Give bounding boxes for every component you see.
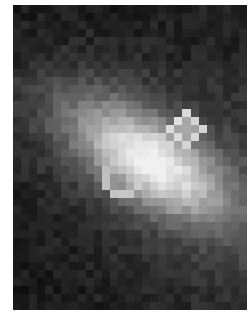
image-pixel <box>61 5 69 13</box>
image-pixel <box>150 125 158 133</box>
image-pixel <box>118 5 126 13</box>
image-pixel <box>231 270 239 278</box>
image-pixel <box>158 238 166 246</box>
image-pixel <box>182 141 190 149</box>
image-pixel <box>29 149 37 157</box>
image-pixel <box>231 174 239 182</box>
image-pixel <box>126 117 134 125</box>
image-pixel <box>182 93 190 101</box>
image-pixel <box>102 5 110 13</box>
image-pixel <box>191 53 199 61</box>
image-pixel <box>158 37 166 45</box>
image-pixel <box>150 246 158 254</box>
image-pixel <box>150 262 158 270</box>
image-pixel <box>61 270 69 278</box>
image-pixel <box>110 29 118 37</box>
image-pixel <box>37 254 45 262</box>
image-pixel <box>150 174 158 182</box>
image-pixel <box>239 238 247 246</box>
image-pixel <box>231 125 239 133</box>
image-pixel <box>61 53 69 61</box>
image-pixel <box>207 45 215 53</box>
image-pixel <box>142 254 150 262</box>
image-pixel <box>53 101 61 109</box>
image-pixel <box>126 85 134 93</box>
image-pixel <box>45 270 53 278</box>
image-pixel <box>142 69 150 77</box>
image-pixel <box>166 214 174 222</box>
image-pixel <box>86 101 94 109</box>
image-pixel <box>126 61 134 69</box>
image-pixel <box>13 85 21 93</box>
image-pixel <box>134 141 142 149</box>
image-pixel <box>110 286 118 294</box>
image-pixel <box>174 93 182 101</box>
image-pixel <box>134 246 142 254</box>
image-pixel <box>158 109 166 117</box>
image-pixel <box>13 174 21 182</box>
image-pixel <box>110 157 118 165</box>
image-pixel <box>110 262 118 270</box>
image-pixel <box>134 302 142 310</box>
image-pixel <box>215 198 223 206</box>
image-pixel <box>191 29 199 37</box>
image-pixel <box>29 206 37 214</box>
image-pixel <box>13 109 21 117</box>
image-pixel <box>78 149 86 157</box>
image-pixel <box>45 101 53 109</box>
image-pixel <box>126 198 134 206</box>
image-pixel <box>207 13 215 21</box>
image-pixel <box>21 230 29 238</box>
image-pixel <box>199 29 207 37</box>
image-pixel <box>102 190 110 198</box>
image-pixel <box>126 157 134 165</box>
image-pixel <box>21 174 29 182</box>
image-pixel <box>94 190 102 198</box>
image-pixel <box>174 238 182 246</box>
image-pixel <box>21 238 29 246</box>
image-pixel <box>158 174 166 182</box>
image-pixel <box>199 286 207 294</box>
image-pixel <box>78 190 86 198</box>
image-pixel <box>231 222 239 230</box>
image-pixel <box>29 53 37 61</box>
image-pixel <box>191 149 199 157</box>
image-pixel <box>45 278 53 286</box>
image-pixel <box>94 109 102 117</box>
image-pixel <box>182 61 190 69</box>
image-pixel <box>182 222 190 230</box>
image-pixel <box>199 222 207 230</box>
image-pixel <box>69 198 77 206</box>
image-pixel <box>215 117 223 125</box>
image-pixel <box>86 109 94 117</box>
image-pixel <box>78 133 86 141</box>
image-pixel <box>191 21 199 29</box>
image-pixel <box>69 166 77 174</box>
image-pixel <box>53 278 61 286</box>
image-pixel <box>207 278 215 286</box>
image-pixel <box>174 286 182 294</box>
image-pixel <box>174 198 182 206</box>
image-pixel <box>45 133 53 141</box>
image-pixel <box>215 214 223 222</box>
image-pixel <box>231 206 239 214</box>
image-pixel <box>69 133 77 141</box>
image-pixel <box>215 85 223 93</box>
image-pixel <box>13 166 21 174</box>
image-pixel <box>110 109 118 117</box>
image-pixel <box>118 141 126 149</box>
image-pixel <box>174 270 182 278</box>
image-pixel <box>231 29 239 37</box>
image-pixel <box>21 182 29 190</box>
image-pixel <box>231 230 239 238</box>
image-pixel <box>29 230 37 238</box>
image-pixel <box>223 125 231 133</box>
image-pixel <box>21 29 29 37</box>
image-pixel <box>102 125 110 133</box>
image-pixel <box>13 286 21 294</box>
image-pixel <box>174 174 182 182</box>
image-pixel <box>126 13 134 21</box>
image-pixel <box>94 141 102 149</box>
image-pixel <box>223 206 231 214</box>
image-pixel <box>166 133 174 141</box>
